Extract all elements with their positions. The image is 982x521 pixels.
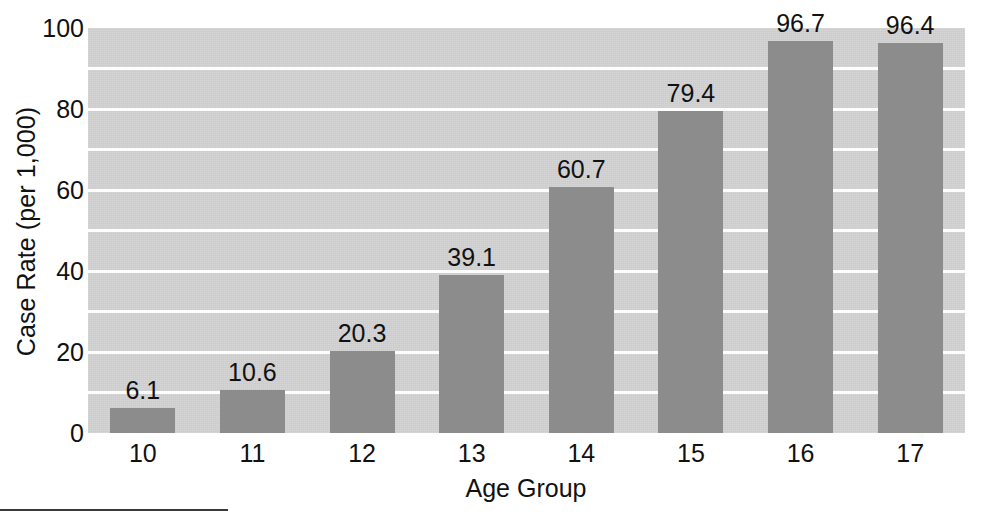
bar [658, 111, 723, 433]
bar [220, 390, 285, 433]
y-axis-tick-label: 20 [0, 340, 84, 365]
bar [110, 408, 175, 433]
x-axis-tick-label: 12 [302, 441, 422, 466]
y-axis-tick-labels: 020406080100 [0, 0, 84, 521]
bar [439, 275, 504, 433]
bar-value-label: 96.4 [850, 13, 970, 38]
bar-value-label: 6.1 [83, 378, 203, 403]
y-axis-tick-label: 60 [0, 178, 84, 203]
bar-value-label: 79.4 [631, 81, 751, 106]
x-axis-tick-label: 10 [83, 441, 203, 466]
bar-value-label: 10.6 [192, 360, 312, 385]
x-axis-tick-label: 15 [631, 441, 751, 466]
y-axis-tick-label: 40 [0, 259, 84, 284]
bar [768, 41, 833, 433]
bar-value-label: 39.1 [412, 245, 532, 270]
bar-chart-figure: Case Rate (per 1,000) 020406080100 6.110… [0, 0, 982, 521]
bar-value-label: 60.7 [521, 157, 641, 182]
x-axis-tick-label: 11 [192, 441, 312, 466]
x-axis-tick-label: 17 [850, 441, 970, 466]
x-axis-tick-label: 14 [521, 441, 641, 466]
bar [549, 187, 614, 433]
bar-value-label: 20.3 [302, 321, 422, 346]
x-axis-title-text: Age Group [466, 474, 587, 503]
x-axis-title: Age Group [0, 474, 982, 503]
x-axis-tick-label: 16 [741, 441, 861, 466]
y-axis-tick-label: 100 [0, 16, 84, 41]
bar-value-label: 96.7 [741, 11, 861, 36]
x-axis-tick-label: 13 [412, 441, 532, 466]
bottom-horizontal-rule [0, 509, 228, 511]
y-axis-tick-label: 80 [0, 97, 84, 122]
bar [878, 43, 943, 433]
y-axis-tick-label: 0 [0, 421, 84, 446]
x-axis-tick-labels: 1011121314151617 [88, 441, 965, 475]
bar [330, 351, 395, 433]
